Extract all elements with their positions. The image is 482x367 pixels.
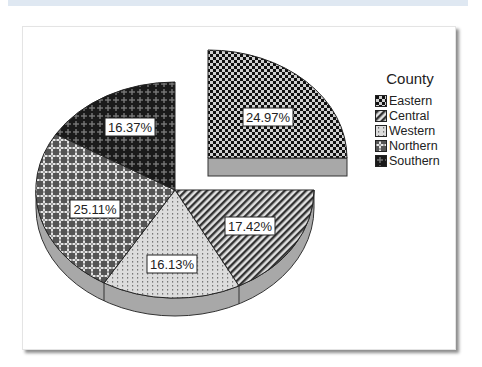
legend-label: Southern xyxy=(389,154,440,168)
light-cross-swatch-icon xyxy=(375,140,387,152)
dark-cross-swatch-icon xyxy=(375,155,387,167)
slice-eastern[interactable] xyxy=(208,50,347,158)
legend-item-northern[interactable]: Northern xyxy=(375,138,465,153)
checkerboard-swatch-icon xyxy=(375,95,387,107)
pie-chart: 24.97% 16.37% 25.11% 16.13% 17.42% xyxy=(0,0,482,367)
legend-item-western[interactable]: Western xyxy=(375,123,465,138)
legend-label: Central xyxy=(389,109,429,123)
legend-item-central[interactable]: Central xyxy=(375,108,465,123)
legend: County Eastern Central Western Northern … xyxy=(375,70,465,168)
legend-label: Western xyxy=(389,124,435,138)
svg-text:25.11%: 25.11% xyxy=(73,202,117,217)
svg-text:24.97%: 24.97% xyxy=(246,110,291,125)
legend-title: County xyxy=(375,70,445,87)
legend-item-eastern[interactable]: Eastern xyxy=(375,93,465,108)
label-northern: 25.11% xyxy=(70,200,120,218)
svg-text:16.37%: 16.37% xyxy=(108,120,153,135)
label-western: 16.13% xyxy=(147,255,197,273)
dots-swatch-icon xyxy=(375,125,387,137)
svg-text:17.42%: 17.42% xyxy=(228,219,273,234)
label-southern: 16.37% xyxy=(105,118,155,136)
label-central: 17.42% xyxy=(225,217,275,235)
legend-item-southern[interactable]: Southern xyxy=(375,153,465,168)
svg-text:16.13%: 16.13% xyxy=(150,257,195,272)
label-eastern: 24.97% xyxy=(243,108,293,126)
legend-label: Northern xyxy=(389,139,438,153)
diagonal-stripes-swatch-icon xyxy=(375,110,387,122)
legend-label: Eastern xyxy=(389,94,432,108)
